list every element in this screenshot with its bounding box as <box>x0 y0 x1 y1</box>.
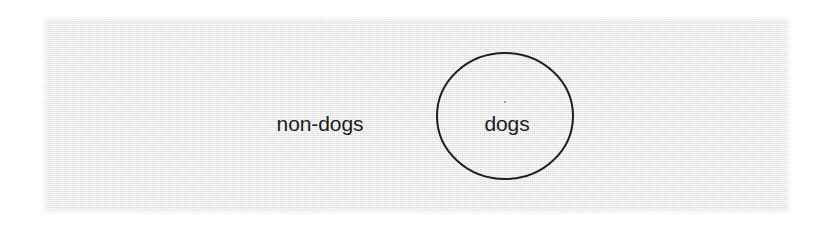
non-dogs-set-label: non-dogs <box>277 113 364 134</box>
scan-speck-artifact <box>504 101 506 103</box>
dogs-set-label: dogs <box>484 113 529 134</box>
figure-root: non-dogs dogs <box>0 0 827 237</box>
diagram-shape-layer <box>0 0 827 237</box>
